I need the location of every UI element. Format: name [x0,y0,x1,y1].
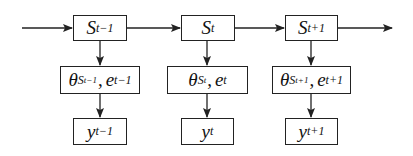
separator: , [98,69,103,91]
output-subscript: t−1 [96,124,113,139]
params-box-t-minus-1: θSt−1,et−1 [60,66,140,94]
theta-subsubscript: t [204,75,207,85]
state-symbol: S [202,17,212,39]
error-symbol: e [215,69,223,91]
theta-symbol: θ [68,69,77,91]
output-symbol: y [202,121,210,143]
state-box-t-plus-1: St+1 [285,15,338,41]
state-box-t-minus-1: St−1 [73,15,127,41]
error-subscript: t [223,73,226,88]
state-symbol: S [298,17,308,39]
theta-subsubscript: t−1 [84,75,97,85]
error-symbol: e [317,69,325,91]
output-symbol: y [299,121,307,143]
params-box-t: θSt,et [167,66,248,94]
state-box-t: St [181,15,235,41]
separator: , [309,69,314,91]
output-box-t-plus-1: yt+1 [285,118,338,145]
output-subscript: t [210,124,213,139]
error-subscript: t+1 [326,73,343,88]
params-box-t-plus-1: θSt+1,et+1 [272,66,351,94]
state-subscript: t [211,21,214,36]
state-subscript: t+1 [308,21,325,36]
error-symbol: e [106,69,114,91]
output-subscript: t+1 [307,124,324,139]
error-subscript: t−1 [114,73,131,88]
theta-subsubscript: t+1 [295,75,308,85]
state-symbol: S [87,17,97,39]
theta-symbol: θ [280,69,289,91]
theta-symbol: θ [188,69,197,91]
output-symbol: y [87,121,95,143]
state-subscript: t−1 [96,21,113,36]
separator: , [207,69,212,91]
output-box-t: yt [181,118,234,145]
output-box-t-minus-1: yt−1 [73,118,127,145]
